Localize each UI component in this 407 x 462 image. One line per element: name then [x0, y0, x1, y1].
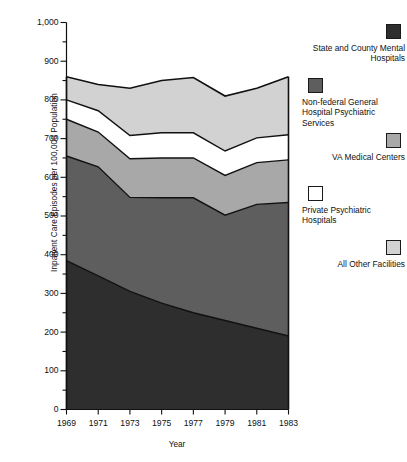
y-tick-label-700: 700	[15, 134, 59, 143]
y-tick-label-0: 0	[15, 405, 59, 414]
legend-swatch-icon-1	[386, 24, 401, 39]
y-tick-label-1000: 1,000	[15, 18, 59, 27]
legend-swatch-icon-3	[386, 133, 401, 148]
chart-root: Inpatient Care Episodes per 100,000 Popu…	[0, 0, 407, 462]
legend-label-4: Private Psychiatric Hospitals	[302, 205, 405, 226]
x-axis-title: Year	[66, 440, 288, 449]
y-tick-label-200: 200	[15, 328, 59, 337]
chart-legend: State and County Mental HospitalsNon-fed…	[300, 0, 407, 462]
y-tick-label-500: 500	[15, 211, 59, 220]
y-tick-label-100: 100	[15, 366, 59, 375]
legend-label-3: VA Medical Centers	[302, 152, 405, 162]
y-tick-label-600: 600	[15, 173, 59, 182]
legend-label-1: State and County Mental Hospitals	[302, 43, 405, 64]
legend-label-5: All Other Facilities	[302, 259, 405, 269]
legend-label-2: Non-federal General Hospital Psychiatric…	[302, 97, 405, 128]
legend-swatch-icon-4	[308, 186, 323, 201]
y-tick-label-400: 400	[15, 250, 59, 259]
y-tick-label-300: 300	[15, 289, 59, 298]
y-tick-label-800: 800	[15, 95, 59, 104]
legend-swatch-icon-5	[386, 240, 401, 255]
y-tick-label-900: 900	[15, 57, 59, 66]
legend-swatch-icon-2	[308, 78, 323, 93]
